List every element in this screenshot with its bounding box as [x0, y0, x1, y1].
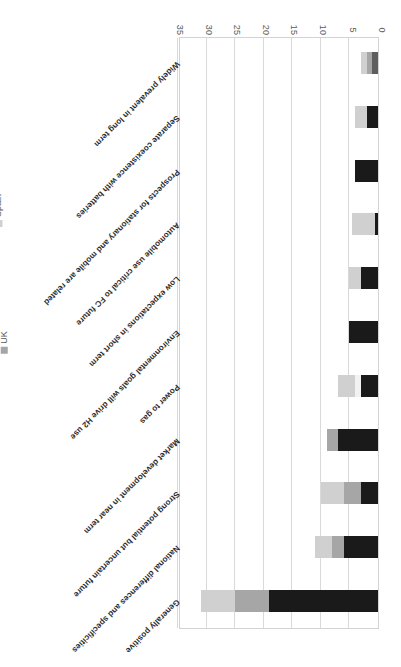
bar-row[interactable]: [180, 106, 378, 128]
bar-segment-spain[interactable]: [355, 106, 366, 128]
bar-segment-france[interactable]: [361, 375, 378, 397]
bar-row[interactable]: [180, 590, 378, 612]
stacked-bar-chart: 05101520253035 Generally positiveNationa…: [0, 0, 401, 667]
bar-segment-spain[interactable]: [338, 375, 355, 397]
bar-segment-france[interactable]: [355, 160, 378, 182]
legend-label: UK: [0, 331, 9, 344]
bar-segment-spain[interactable]: [352, 213, 375, 235]
plot-area: [179, 37, 379, 629]
bar-row[interactable]: [180, 160, 378, 182]
legend-label: Spain: [0, 194, 3, 217]
bar-segment-uk[interactable]: [367, 52, 373, 74]
value-tick-label: 20: [261, 25, 271, 35]
category-label: Power to gas: [138, 382, 181, 425]
legend-label: France: [0, 455, 1, 483]
bar-row[interactable]: [180, 375, 378, 397]
bar-track: [180, 536, 378, 558]
category-label: National differences and specificities: [70, 544, 181, 655]
bars-layer: [180, 38, 378, 628]
bar-segment-france[interactable]: [375, 213, 378, 235]
bar-segment-spain[interactable]: [201, 590, 235, 612]
value-tick-label: 30: [203, 25, 213, 35]
category-label: Low expectations in short term: [87, 275, 181, 369]
category-label: Environmental goals will drive H2 use: [68, 329, 181, 442]
bar-track: [180, 52, 378, 74]
bar-segment-uk[interactable]: [235, 590, 269, 612]
bar-segment-uk[interactable]: [332, 536, 343, 558]
bar-row[interactable]: [180, 321, 378, 343]
legend-entry-spain[interactable]: Spain: [0, 194, 3, 227]
bar-row[interactable]: [180, 267, 378, 289]
bar-row[interactable]: [180, 482, 378, 504]
value-tick-label: 0: [377, 27, 387, 32]
value-axis: 05101520253035: [179, 7, 379, 37]
bar-segment-spain[interactable]: [321, 482, 344, 504]
value-tick-label: 15: [289, 25, 299, 35]
value-tick-label: 35: [175, 25, 185, 35]
bar-track: [180, 429, 378, 451]
bar-track: [180, 482, 378, 504]
bar-segment-france[interactable]: [361, 267, 378, 289]
bar-segment-slovenia[interactable]: [372, 52, 378, 74]
bar-row[interactable]: [180, 536, 378, 558]
bar-track: [180, 106, 378, 128]
bar-segment-france[interactable]: [361, 482, 378, 504]
bar-row[interactable]: [180, 213, 378, 235]
bar-segment-spain[interactable]: [349, 267, 360, 289]
bar-row[interactable]: [180, 429, 378, 451]
category-label: Market development in near term: [82, 436, 181, 535]
bar-track: [180, 160, 378, 182]
chart-rotation-wrapper: 05101520253035 Generally positiveNationa…: [0, 0, 401, 667]
category-label: Widely prevalent in long term: [92, 59, 181, 148]
bar-segment-france[interactable]: [349, 321, 378, 343]
category-label: Generally positive: [124, 598, 182, 656]
bar-segment-france[interactable]: [367, 106, 378, 128]
value-tick-label: 10: [318, 25, 328, 35]
category-label: Strong potential but uncertain future: [72, 490, 182, 600]
bar-track: [180, 375, 378, 397]
bar-track: [180, 590, 378, 612]
bar-track: [180, 321, 378, 343]
category-label: Automobile use critical to FC future: [74, 221, 181, 328]
bar-segment-uk[interactable]: [344, 482, 361, 504]
bar-segment-france[interactable]: [269, 590, 378, 612]
bar-segment-france[interactable]: [344, 536, 378, 558]
bar-track: [180, 267, 378, 289]
bar-segment-france[interactable]: [338, 429, 378, 451]
bar-segment-uk[interactable]: [327, 429, 338, 451]
category-label: Separate coexistence with batteries: [74, 113, 181, 220]
bar-segment-spain[interactable]: [361, 52, 367, 74]
bar-row[interactable]: [180, 52, 378, 74]
legend-swatch-icon: [0, 220, 2, 227]
bar-segment-germany[interactable]: [355, 375, 361, 397]
bar-track: [180, 213, 378, 235]
bar-segment-spain[interactable]: [315, 536, 332, 558]
legend-entry-france[interactable]: France: [0, 455, 1, 493]
value-tick-label: 25: [232, 25, 242, 35]
chart-legend: FranceSloveniaUKGermanySpain: [9, 0, 29, 667]
legend-swatch-icon: [1, 347, 8, 354]
legend-entry-uk[interactable]: UK: [0, 331, 9, 354]
value-tick-label: 5: [349, 27, 359, 32]
